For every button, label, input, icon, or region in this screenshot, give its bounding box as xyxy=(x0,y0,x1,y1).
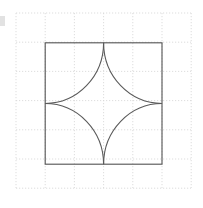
left-edge-smudge-artifact xyxy=(0,16,5,26)
figure-background xyxy=(0,0,203,208)
geometry-figure-canvas xyxy=(0,0,203,208)
geometry-figure-container xyxy=(0,0,203,208)
